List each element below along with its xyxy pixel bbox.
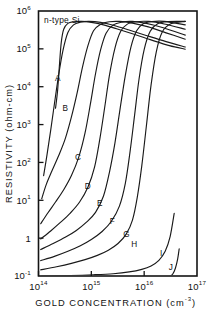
chart-annotation: n-type Si	[44, 15, 80, 25]
curve-label-h: H	[131, 240, 137, 249]
figure-page: 106105104103102101110-11014101510161017 …	[0, 0, 211, 319]
y-axis-title: RESISTIVITY (ohm-cm)	[4, 84, 14, 203]
curve-label-b: B	[62, 104, 68, 113]
curve-i	[42, 213, 174, 276]
x-axis-tick-label: 1014	[29, 279, 48, 291]
y-axis-tick-label: 105	[16, 42, 31, 54]
y-axis-tick-label: 1	[26, 233, 31, 244]
curve-label-f: F	[110, 217, 115, 226]
y-axis-tick-label: 102	[16, 156, 31, 168]
curve-label-g: G	[123, 230, 129, 239]
resistivity-vs-gold-concentration-chart: 106105104103102101110-11014101510161017 …	[0, 0, 211, 319]
y-axis-tick-label: 103	[16, 118, 31, 130]
y-axis-tick-label: 101	[16, 193, 31, 205]
y-axis-tick-label: 106	[16, 4, 31, 16]
x-axis-tick-label: 1015	[82, 279, 101, 291]
curves-layer	[41, 21, 186, 276]
labels-layer: ABCDEFGHIJn-type SiGOLD CONCENTRATION (c…	[4, 15, 197, 308]
x-axis-tick-label: 1017	[188, 279, 207, 291]
curve-label-i: I	[160, 249, 162, 258]
curve-label-c: C	[75, 153, 81, 162]
x-axis-title: GOLD CONCENTRATION (cm-3)	[35, 296, 196, 307]
curve-label-d: D	[85, 182, 91, 191]
y-axis-tick-label: 104	[16, 80, 31, 92]
curve-a	[56, 21, 186, 108]
curve-label-a: A	[55, 74, 61, 83]
plot-frame	[39, 11, 198, 276]
curve-label-j: J	[169, 263, 173, 272]
x-axis-tick-label: 1016	[135, 279, 154, 291]
curve-label-e: E	[97, 199, 103, 208]
